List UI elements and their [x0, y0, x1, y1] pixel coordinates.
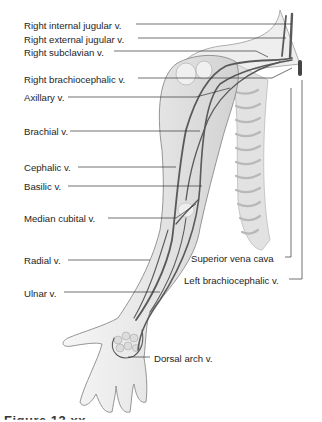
label-right-subclavian: Right subclavian v. [24, 47, 104, 58]
label-superior-vena-cava: Superior vena cava [191, 253, 274, 264]
label-basilic: Basilic v. [24, 181, 61, 192]
label-right-brachiocephalic: Right brachiocephalic v. [24, 74, 125, 85]
label-dorsal-arch: Dorsal arch v. [154, 353, 212, 364]
label-right-external-jugular: Right external jugular v. [24, 34, 124, 45]
label-ulnar: Ulnar v. [24, 288, 56, 299]
label-cephalic: Cephalic v. [24, 162, 71, 173]
label-right-internal-jugular: Right internal jugular v. [24, 20, 121, 31]
label-radial: Radial v. [24, 255, 61, 266]
leader-superior-vena-cava [285, 88, 291, 257]
label-axillary: Axillary v. [24, 92, 64, 103]
label-left-brachiocephalic: Left brachiocephalic v. [184, 275, 279, 286]
label-median-cubital: Median cubital v. [24, 213, 95, 224]
label-brachial: Brachial v. [24, 126, 68, 137]
